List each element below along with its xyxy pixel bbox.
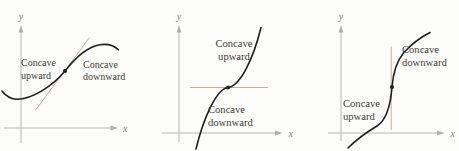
x-axis-label: x bbox=[122, 123, 128, 134]
annotation-concave-upward-line2: upward bbox=[343, 111, 375, 122]
panel-vertical-tangent: y x Concave downward Concave upward bbox=[300, 0, 459, 151]
annotation-concave-downward-line1: Concave bbox=[208, 104, 245, 115]
inflection-point-dot bbox=[390, 85, 394, 89]
annotation-concave-downward-line2: downward bbox=[83, 71, 125, 82]
y-axis-label: y bbox=[338, 11, 344, 22]
annotation-concave-upward-line2: upward bbox=[21, 70, 51, 81]
panel-oblique-tangent: y x Concave upward Concave downward bbox=[0, 0, 150, 151]
inflection-point-dot bbox=[63, 69, 67, 73]
x-axis-arrowhead bbox=[275, 131, 283, 136]
y-axis-arrowhead bbox=[177, 25, 182, 33]
y-axis-arrowhead bbox=[19, 25, 24, 33]
y-axis-label: y bbox=[18, 11, 24, 22]
x-axis-label: x bbox=[288, 128, 294, 139]
annotation-concave-downward-line1: Concave bbox=[402, 44, 439, 55]
inflection-point-dot bbox=[226, 85, 230, 89]
panel-horizontal-tangent: y x Concave upward Concave downward bbox=[150, 0, 300, 151]
annotation-concave-upward-line1: Concave bbox=[215, 38, 252, 49]
y-axis-label: y bbox=[176, 11, 182, 22]
x-axis-arrowhead bbox=[437, 131, 445, 136]
annotation-concave-upward-line1: Concave bbox=[343, 98, 380, 109]
annotation-concave-downward-line1: Concave bbox=[83, 59, 119, 70]
annotation-concave-downward-line2: downward bbox=[208, 117, 253, 128]
x-axis-arrowhead bbox=[111, 126, 119, 131]
annotation-concave-downward-line2: downward bbox=[402, 57, 447, 68]
annotation-concave-upward-line2: upward bbox=[218, 51, 250, 62]
y-axis-arrowhead bbox=[339, 25, 344, 33]
annotation-concave-upward-line1: Concave bbox=[21, 57, 57, 68]
concavity-figure: y x Concave upward Concave downward y x … bbox=[0, 0, 459, 151]
x-axis-label: x bbox=[450, 128, 456, 139]
